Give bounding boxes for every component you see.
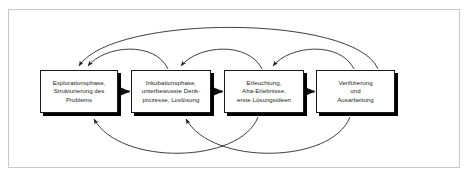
- phase-box-erleuchtung[interactable]: Erleuchtung, Aha-Erlebnisse, erste Lösun…: [224, 70, 304, 113]
- phase-label-erleuchtung: Erleuchtung, Aha-Erlebnisse, erste Lösun…: [237, 79, 291, 105]
- diagram-figure: Explorationsphase, Strukturierung des Pr…: [0, 0, 471, 179]
- phase-box-inkubationsphase[interactable]: Inkubationsphase, unterbewusste Denk- pr…: [131, 70, 211, 113]
- phase-label-inkubationsphase: Inkubationsphase, unterbewusste Denk- pr…: [142, 79, 201, 105]
- phase-label-explorationsphase: Explorationsphase, Strukturierung des Pr…: [53, 79, 106, 105]
- phase-box-verifizierung[interactable]: Verifizierung und Ausarbeitung: [316, 70, 395, 113]
- phase-label-verifizierung: Verifizierung und Ausarbeitung: [337, 79, 374, 105]
- phase-box-explorationsphase[interactable]: Explorationsphase, Strukturierung des Pr…: [40, 70, 118, 113]
